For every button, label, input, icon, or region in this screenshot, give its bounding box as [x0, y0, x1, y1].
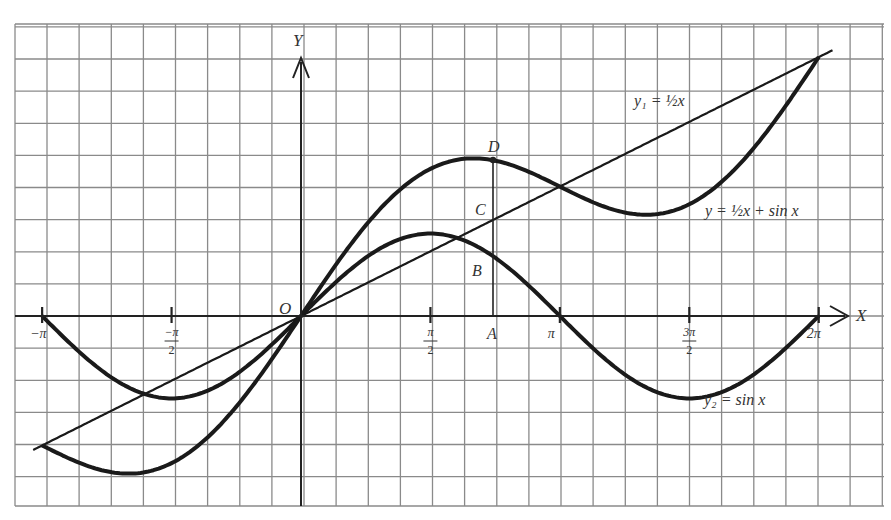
point-D-dot: [490, 157, 496, 163]
x-tick-label: −π: [30, 326, 47, 341]
function-graph: X Y O −π−π2π2π3π22π A B C D y₁ = ½x y = …: [0, 0, 891, 520]
point-A-label: A: [486, 325, 497, 342]
line-label: y₁ = ½x: [632, 92, 685, 110]
point-annotations: A B C D: [472, 138, 500, 342]
point-B-label: B: [472, 262, 482, 279]
x-axis-label: X: [855, 306, 867, 325]
origin-label: O: [279, 299, 291, 318]
x-tick-label: 3π: [682, 325, 696, 339]
x-tick-label-denominator: 2: [686, 343, 692, 357]
x-tick-label-denominator: 2: [169, 343, 175, 357]
point-D-label: D: [487, 138, 500, 155]
curve-y-half-x-plus-sin-x: [42, 57, 819, 474]
x-ticks: −π−π2π2π3π22π: [30, 307, 822, 357]
y-axis-label: Y: [293, 31, 304, 50]
x-tick-label: 2π: [807, 326, 822, 341]
x-tick-label-denominator: 2: [427, 343, 433, 357]
x-tick-label: −π: [165, 325, 180, 339]
x-tick-label: π: [427, 325, 434, 339]
x-tick-label: π: [548, 326, 556, 341]
sum-curve-label: y = ½x + sin x: [703, 202, 799, 220]
sine-curve-label: y₂ = sin x: [702, 391, 765, 409]
grid: [15, 24, 884, 506]
point-C-label: C: [475, 201, 486, 218]
